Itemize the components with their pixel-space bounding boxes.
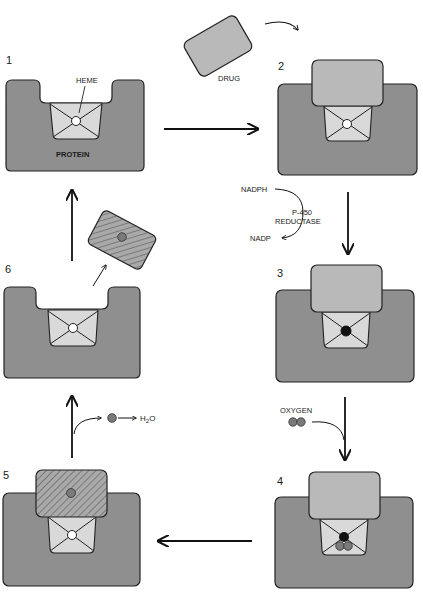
bound-oxygen-atom-b: [344, 542, 353, 551]
oxygen-label: OXYGEN: [280, 406, 312, 415]
stage-number-3: 3: [277, 267, 283, 279]
stage-5: 5: [3, 469, 140, 586]
stage-number-4: 4: [277, 475, 283, 487]
stage-2: 2: [278, 60, 417, 175]
nadp-label: NADP: [250, 234, 271, 243]
iron-atom-2: [343, 120, 352, 129]
iron-atom-reduced-3: [341, 326, 351, 336]
stage-number-5: 5: [3, 469, 9, 481]
oxygen-molecule: [289, 418, 305, 426]
bound-oxygen-atom-a: [336, 542, 345, 551]
stage-4: 4: [275, 472, 413, 588]
iron-atom-1: [72, 117, 81, 126]
released-oxygen-atom: [108, 414, 117, 423]
oxygen-atom-on-released-drug: [118, 233, 127, 242]
heme-label: HEME: [76, 76, 98, 85]
drug-label: DRUG: [218, 74, 240, 83]
stage-number-6: 6: [5, 263, 11, 275]
reductase-label-line2: REDUCTASE: [275, 217, 321, 226]
iron-atom-6: [69, 324, 78, 333]
drug-bound-3: [311, 265, 382, 312]
drug-release-arrow: [93, 265, 106, 286]
drug-bound-2: [312, 60, 383, 106]
stage-number-2: 2: [278, 60, 284, 72]
iron-atom-reduced-4: [339, 532, 349, 542]
oxygen-join-line: [312, 422, 344, 440]
p450-cycle-diagram: 1 HEME PROTEIN DRUG 2 NADPH P-450 REDUCT…: [0, 0, 423, 599]
stage-1: 1 HEME PROTEIN: [6, 54, 144, 171]
released-drug: [87, 209, 158, 271]
stage-6: 6: [4, 263, 140, 378]
water-release-arrow: [74, 418, 101, 434]
oxygen-atom-on-drug-5: [67, 489, 76, 498]
protein-label: PROTEIN: [56, 150, 89, 159]
reductase-label-line1: P-450: [292, 208, 312, 217]
drug-bound-4: [309, 472, 380, 519]
nadph-label: NADPH: [241, 185, 267, 194]
drug-free: DRUG: [182, 14, 298, 83]
stage-number-1: 1: [6, 54, 12, 66]
water-label: H2O: [140, 414, 155, 424]
iron-atom-5: [68, 531, 77, 540]
stage-3: 3: [276, 265, 414, 382]
heme-1: [50, 103, 102, 139]
drug-binding-arrow: [265, 22, 298, 30]
